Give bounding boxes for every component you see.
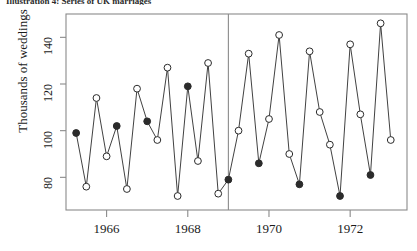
plot-frame <box>66 14 407 210</box>
data-point-open <box>286 151 293 158</box>
data-point-open <box>235 127 242 134</box>
data-point-open <box>103 153 110 160</box>
data-point-open <box>195 158 202 165</box>
data-point-open <box>83 183 90 190</box>
data-point-open <box>266 116 273 123</box>
data-point-filled <box>367 172 374 179</box>
data-point-open <box>215 190 222 197</box>
data-point-open <box>377 20 384 27</box>
data-point-open <box>387 137 394 144</box>
data-point-open <box>326 141 333 148</box>
data-point-filled <box>225 176 232 183</box>
data-point-filled <box>255 160 262 167</box>
data-point-open <box>174 193 181 200</box>
data-point-open <box>347 41 354 48</box>
data-point-open <box>306 48 313 55</box>
data-point-open <box>134 85 141 92</box>
data-point-open <box>93 95 100 102</box>
data-point-open <box>276 32 283 39</box>
series-line <box>76 23 391 196</box>
data-point-open <box>316 109 323 116</box>
data-point-open <box>205 60 212 67</box>
data-point-open <box>245 50 252 57</box>
data-point-open <box>154 137 161 144</box>
data-point-filled <box>296 181 303 188</box>
data-point-open <box>123 186 130 193</box>
data-point-filled <box>144 118 151 125</box>
chart-plot-area <box>0 0 417 251</box>
data-point-filled <box>337 193 344 200</box>
data-point-filled <box>184 83 191 90</box>
data-point-open <box>164 64 171 71</box>
chart-root: Illustration 4: Series of UK marriages T… <box>0 0 417 251</box>
data-point-filled <box>113 123 120 130</box>
data-point-filled <box>73 130 80 137</box>
data-point-open <box>357 111 364 118</box>
